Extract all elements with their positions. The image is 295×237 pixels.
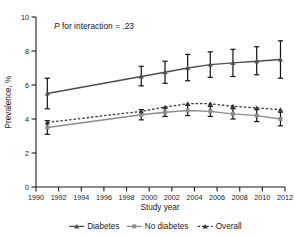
y-tick-label: 0 <box>25 183 29 192</box>
data-point-marker <box>45 126 49 130</box>
legend-marker-1 <box>132 224 136 228</box>
data-point-marker <box>231 112 235 116</box>
legend-label-0: Diabetes <box>87 222 119 231</box>
data-point-marker <box>255 114 259 118</box>
x-tick-label: 2004 <box>186 193 202 202</box>
x-tick-label: 1994 <box>73 193 89 202</box>
series-line <box>47 60 280 94</box>
y-axis-ticks: 0246810 <box>21 13 36 192</box>
y-tick-label: 2 <box>25 149 29 158</box>
x-tick-label: 1996 <box>96 193 112 202</box>
y-tick-label: 10 <box>21 13 29 22</box>
axes <box>36 17 285 187</box>
data-point-marker <box>163 110 167 114</box>
data-point-marker <box>185 101 190 105</box>
x-tick-label: 1992 <box>51 193 67 202</box>
p-annotation-rest: for interaction = .23 <box>60 21 135 31</box>
data-point-marker <box>278 117 282 121</box>
data-point-marker <box>208 101 213 105</box>
x-axis-title: Study year <box>140 203 179 212</box>
data-point-marker <box>208 109 212 113</box>
legend-label-2: Overall <box>216 222 242 231</box>
chart-figure: 0246810 19901992199419961998200020022004… <box>0 0 295 237</box>
data-point-marker <box>278 107 283 111</box>
x-tick-label: 2010 <box>254 193 270 202</box>
y-tick-label: 8 <box>25 47 29 56</box>
x-tick-label: 1990 <box>28 193 44 202</box>
x-tick-label: 1998 <box>119 193 135 202</box>
legend-label-1: No diabetes <box>145 222 189 231</box>
series-diabetes <box>45 41 283 109</box>
series-no-diabetes <box>45 105 283 134</box>
chart-legend: DiabetesNo diabetesOverall <box>69 222 242 231</box>
y-tick-label: 6 <box>25 81 29 90</box>
x-axis-ticks: 1990199219941996199820002002200420062008… <box>28 187 293 202</box>
x-tick-label: 2006 <box>209 193 225 202</box>
p-value-annotation: P for interaction = .23 <box>54 21 134 31</box>
x-tick-label: 2012 <box>277 193 293 202</box>
data-point-marker <box>186 109 190 113</box>
data-series-layer <box>45 41 283 135</box>
x-tick-label: 2002 <box>164 193 180 202</box>
x-tick-label: 2008 <box>232 193 248 202</box>
y-tick-label: 4 <box>25 115 29 124</box>
prevalence-line-chart: 0246810 19901992199419961998200020022004… <box>0 0 295 237</box>
x-tick-label: 2000 <box>141 193 157 202</box>
y-axis-title: Prevalence, % <box>4 76 13 129</box>
